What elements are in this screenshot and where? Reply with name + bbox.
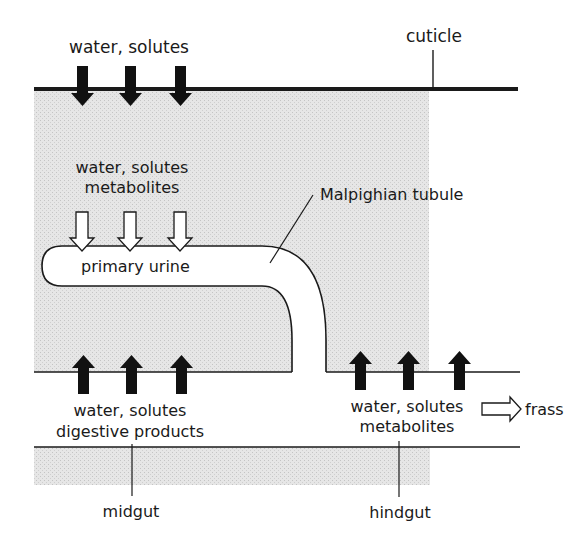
cuticle-label: cuticle <box>406 26 462 46</box>
hindgut-outputs-label-line1: water, solutes <box>351 397 464 416</box>
frass-label: frass <box>525 400 564 419</box>
hindgut-outputs-label-line2: metabolites <box>360 417 455 436</box>
tubule-inputs-label-line2: metabolites <box>85 178 180 197</box>
malpighian-tubule-label: Malpighian tubule <box>320 185 463 204</box>
top-inputs-label: water, solutes <box>69 37 189 57</box>
excretion-diagram: water, solutes cuticle water, solutes me… <box>0 0 588 546</box>
midgut-outputs-label-line2: digestive products <box>56 422 204 441</box>
primary-urine-label: primary urine <box>81 257 190 276</box>
midgut-outputs-label-line1: water, solutes <box>74 401 187 420</box>
midgut-label: midgut <box>103 502 160 521</box>
hindgut-label: hindgut <box>369 503 430 522</box>
tubule-inputs-label-line1: water, solutes <box>76 158 189 177</box>
